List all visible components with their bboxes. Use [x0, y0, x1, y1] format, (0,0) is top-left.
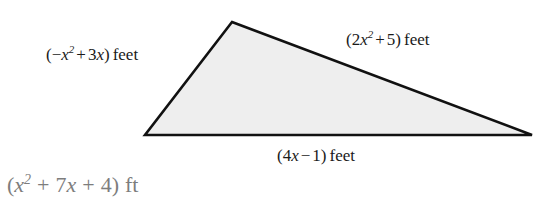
answer-unit: ft	[119, 172, 138, 197]
answer-variable-1: x	[14, 172, 24, 197]
right-coefficient-1: 2	[352, 30, 361, 49]
answer-coefficient-2: 7	[56, 172, 67, 197]
side-label-left: (−x2+3x)feet	[46, 46, 138, 63]
left-unit: feet	[110, 45, 138, 64]
left-variable-1: x	[61, 45, 69, 64]
triangle-polygon	[145, 22, 532, 135]
right-unit: feet	[401, 30, 429, 49]
left-operator-1: +	[74, 45, 88, 64]
answer-operator-2: +	[76, 172, 100, 197]
bottom-unit: feet	[326, 146, 354, 165]
bottom-operator-1: −	[299, 146, 313, 165]
side-label-right: (2x2+5)feet	[346, 31, 429, 48]
side-label-bottom: (4x−1)feet	[277, 147, 355, 164]
left-sign: −	[52, 45, 62, 64]
bottom-coefficient-1: 4	[283, 146, 292, 165]
answer-variable-2: x	[67, 172, 77, 197]
answer-close-paren: )	[112, 172, 119, 197]
answer-expression: (x2+7x+4)ft	[7, 174, 138, 196]
left-close-paren: )	[104, 45, 110, 64]
left-variable-2: x	[96, 45, 104, 64]
answer-constant: 4	[101, 172, 112, 197]
answer-operator-1: +	[31, 172, 55, 197]
right-operator-1: +	[373, 30, 387, 49]
right-variable-1: x	[360, 30, 368, 49]
bottom-constant: 1	[312, 146, 321, 165]
bottom-variable-1: x	[291, 146, 299, 165]
geometry-figure: (−x2+3x)feet (2x2+5)feet (4x−1)feet (x2+…	[0, 0, 543, 207]
